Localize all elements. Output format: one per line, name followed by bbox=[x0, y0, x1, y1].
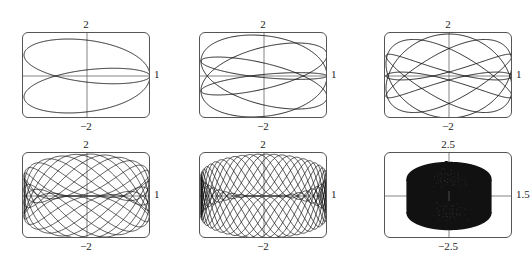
y-max-tick: 2 bbox=[445, 19, 451, 30]
parametric-curve bbox=[200, 153, 327, 238]
x-max-tick: 1 bbox=[154, 69, 160, 80]
parametric-curve bbox=[23, 33, 150, 118]
y-max-tick: 2 bbox=[83, 139, 89, 150]
parametric-curve bbox=[200, 33, 327, 118]
y-max-tick: 2 bbox=[83, 19, 89, 30]
cropped-header-text bbox=[0, 0, 531, 6]
x-max-tick: 1 bbox=[331, 69, 337, 80]
plot-frame bbox=[199, 152, 327, 238]
y-min-tick: −2 bbox=[257, 121, 269, 132]
x-max-tick: 1 bbox=[331, 189, 337, 200]
y-max-tick: 2.5 bbox=[441, 139, 455, 150]
parametric-curve bbox=[23, 153, 150, 238]
y-min-tick: −2 bbox=[442, 121, 454, 132]
plot-frame bbox=[22, 152, 150, 238]
y-min-tick: −2.5 bbox=[438, 241, 458, 252]
x-max-tick: 1.5 bbox=[516, 189, 530, 200]
y-max-tick: 2 bbox=[260, 19, 266, 30]
y-min-tick: −2 bbox=[257, 241, 269, 252]
plot-frame bbox=[22, 32, 150, 118]
parametric-curve-filled bbox=[385, 153, 512, 238]
x-max-tick: 1 bbox=[516, 69, 522, 80]
y-min-tick: −2 bbox=[80, 241, 92, 252]
parametric-curve bbox=[385, 33, 512, 118]
plot-frame bbox=[199, 32, 327, 118]
plot-frame bbox=[384, 32, 512, 118]
y-max-tick: 2 bbox=[260, 139, 266, 150]
plot-frame bbox=[384, 152, 512, 238]
x-max-tick: 1 bbox=[154, 189, 160, 200]
y-min-tick: −2 bbox=[80, 121, 92, 132]
